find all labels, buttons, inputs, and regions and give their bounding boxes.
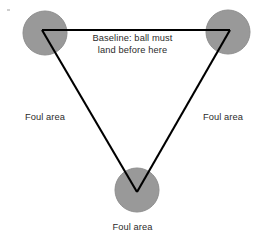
diagram-canvas: Baseline: ball must land before here Fou…	[0, 0, 265, 238]
foul-area-label-bottom: Foul area	[0, 222, 265, 234]
foul-area-label-right: Foul area	[184, 112, 262, 124]
foul-area-label-left: Foul area	[6, 112, 84, 124]
baseline-label: Baseline: ball must land before here	[0, 33, 265, 56]
scan-speck-artifact	[7, 9, 10, 11]
